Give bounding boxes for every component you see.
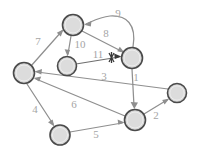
edge-label-8: 8 [103,27,109,39]
edge-9 [84,16,134,47]
edge-4 [27,84,54,126]
edge-6 [34,77,125,116]
node-bottom-mid-inner [127,112,143,128]
edge-label-10: 10 [75,38,87,50]
edge-11-arrowhead [114,54,121,59]
graph-canvas: 9 8 10 11 7 3 1 6 4 5 2 [0,0,197,156]
node-mid-left-inner [60,59,74,73]
edge-label-7: 7 [35,35,41,47]
node-top-inner [65,17,81,33]
edge-4-arrowhead [48,119,54,126]
node-far-right[interactable] [168,84,187,103]
edge-9-arrowhead [84,21,91,26]
node-far-right-inner [170,86,184,100]
node-left-inner [16,65,32,81]
edge-label-3: 3 [101,70,107,82]
node-left[interactable] [14,63,35,84]
node-mid-left[interactable] [58,57,77,76]
edge-10 [65,36,71,56]
edge-label-9: 9 [115,7,121,19]
node-upper-right-inner [124,50,140,66]
node-bottom-left-inner [52,127,67,142]
node-bottom-mid[interactable] [125,110,146,131]
edge-label-11: 11 [93,48,104,60]
edge-2-arrowhead [162,99,169,105]
edges-layer [27,16,169,132]
edge-9-line [86,16,134,47]
node-top[interactable] [63,15,84,36]
node-bottom-left[interactable] [50,125,70,145]
edge-label-2: 2 [153,109,159,121]
edge-1-arrowhead [131,102,138,109]
directed-graph-figure: 9 8 10 11 7 3 1 6 4 5 2 [0,0,197,156]
edge-6-line [36,79,125,116]
edge-label-4: 4 [32,103,38,115]
edge-label-5: 5 [93,128,99,140]
edge-4-line [27,84,53,124]
edge-3-arrowhead [35,69,42,74]
edge-label-6: 6 [71,98,77,110]
node-upper-right[interactable] [122,48,143,69]
edge-label-1: 1 [133,71,139,83]
edge-10-arrowhead [65,49,70,56]
edge-5-arrowhead [118,119,125,124]
